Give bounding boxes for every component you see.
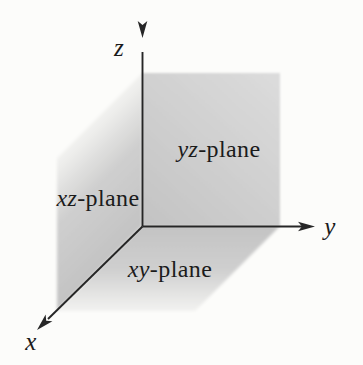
x-axis-label: x bbox=[25, 329, 37, 354]
yz-plane-label: yz-plane bbox=[177, 137, 260, 161]
xz-plane-label: xz-plane bbox=[56, 186, 139, 210]
z-axis-label: z bbox=[114, 35, 124, 60]
xy-plane-label: xy-plane bbox=[128, 257, 212, 281]
z-axis-arrow-icon bbox=[138, 21, 148, 38]
y-axis-label: y bbox=[324, 214, 336, 239]
coordinate-planes-drawing bbox=[0, 0, 363, 365]
coordinate-planes-figure: yz-plane xz-plane xy-plane z y x bbox=[0, 0, 363, 365]
